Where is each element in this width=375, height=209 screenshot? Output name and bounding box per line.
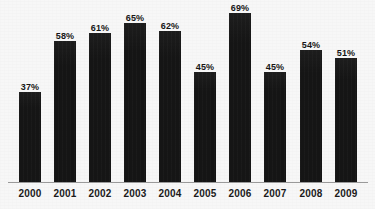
bar	[89, 33, 111, 182]
bar-group: 62%	[159, 0, 181, 209]
bar-chart: 37% 58% 61% 65% 62% 45% 69% 45%	[0, 0, 375, 209]
bar-group: 61%	[89, 0, 111, 209]
bar-value-label: 61%	[82, 23, 118, 33]
bar-value-label: 45%	[187, 62, 223, 72]
bar-group: 65%	[124, 0, 146, 209]
bar	[229, 13, 251, 182]
bar-group: 37%	[19, 0, 41, 209]
bar	[194, 72, 216, 182]
bar	[124, 23, 146, 182]
bar-value-label: 37%	[12, 82, 48, 92]
bar-value-label: 62%	[152, 21, 188, 31]
bar-value-label: 58%	[47, 31, 83, 41]
bar-value-label: 65%	[117, 13, 153, 23]
bar-value-label: 51%	[328, 48, 364, 58]
bar	[19, 92, 41, 182]
bar	[159, 31, 181, 182]
bar	[335, 58, 357, 182]
bar-value-label: 69%	[222, 3, 258, 13]
bar	[264, 72, 286, 182]
bar-value-label: 54%	[293, 40, 329, 50]
bar-group: 45%	[194, 0, 216, 209]
bar-group: 58%	[54, 0, 76, 209]
x-axis-line	[8, 182, 368, 183]
bar	[300, 50, 322, 182]
bar-group: 69%	[229, 0, 251, 209]
bar-group: 54%	[300, 0, 322, 209]
bar-group: 45%	[264, 0, 286, 209]
x-axis-tick-label: 2009	[324, 188, 368, 200]
plot-area: 37% 58% 61% 65% 62% 45% 69% 45%	[0, 0, 375, 209]
bar-group: 51%	[335, 0, 357, 209]
bar	[54, 41, 76, 182]
bar-value-label: 45%	[257, 62, 293, 72]
